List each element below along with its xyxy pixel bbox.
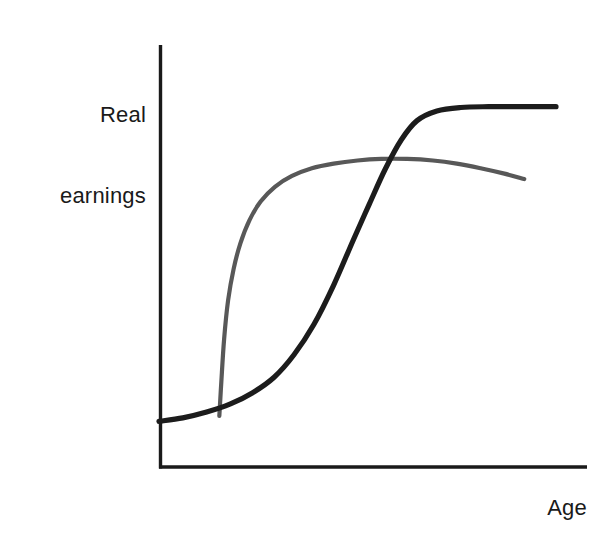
series-high-skill-curve [159,107,556,422]
plot-area [0,0,613,535]
earnings-age-chart: Real earnings Age [0,0,613,535]
